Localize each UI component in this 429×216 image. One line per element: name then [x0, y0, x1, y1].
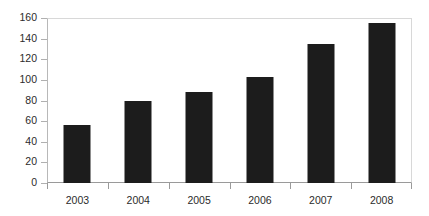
bar-slot	[351, 18, 412, 183]
y-tick-label: 0	[31, 176, 37, 189]
x-tick-slot: 2007	[290, 183, 351, 216]
bar-slot	[108, 18, 169, 183]
x-tick-label-2007: 2007	[290, 194, 351, 207]
x-tick-slot: 2004	[108, 183, 169, 216]
x-tick-slot: 2003	[47, 183, 108, 216]
y-tick-label: 160	[19, 11, 37, 24]
y-axis: 0 20 40 60 80 100 120 140	[0, 0, 47, 216]
x-axis-end-tick	[411, 183, 412, 189]
x-tick-label-2004: 2004	[108, 194, 169, 207]
x-tick-label-2005: 2005	[169, 194, 230, 207]
bar-2007[interactable]	[307, 44, 334, 183]
bar-2005[interactable]	[186, 92, 213, 183]
y-tick-label: 100	[19, 73, 37, 86]
bar-slot	[230, 18, 291, 183]
bar-slot	[290, 18, 351, 183]
bar-2004[interactable]	[125, 101, 152, 184]
bar-2006[interactable]	[246, 77, 273, 183]
y-tick-label: 20	[25, 155, 37, 168]
y-tick-label: 140	[19, 32, 37, 45]
bar-slot	[169, 18, 230, 183]
bar-2008[interactable]	[368, 23, 395, 183]
x-tick-slot: 2008	[351, 183, 412, 216]
x-tick-mark	[290, 183, 291, 189]
bars-layer	[47, 18, 412, 183]
x-tick-slot: 2005	[169, 183, 230, 216]
y-tick-label: 80	[25, 94, 37, 107]
bar-slot	[47, 18, 108, 183]
x-tick-mark	[47, 183, 48, 189]
y-tick-label: 40	[25, 135, 37, 148]
x-tick-mark	[108, 183, 109, 189]
x-axis: 2003 2004 2005 2006 2007 2008	[47, 183, 412, 216]
x-tick-mark	[351, 183, 352, 189]
bar-chart: 0 20 40 60 80 100 120 140	[0, 0, 429, 216]
x-tick-label-2003: 2003	[47, 194, 108, 207]
x-tick-slot: 2006	[230, 183, 291, 216]
bar-2003[interactable]	[64, 125, 91, 183]
x-tick-mark	[230, 183, 231, 189]
x-tick-label-2008: 2008	[351, 194, 412, 207]
x-tick-label-2006: 2006	[230, 194, 291, 207]
y-tick-label: 60	[25, 114, 37, 127]
x-tick-mark	[169, 183, 170, 189]
y-tick-label: 120	[19, 52, 37, 65]
